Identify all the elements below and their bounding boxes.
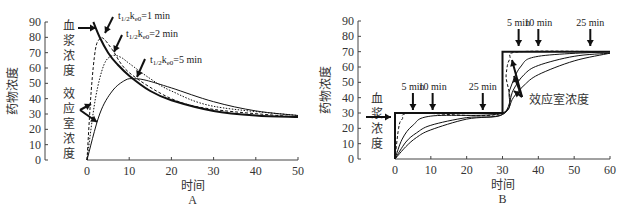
svg-text:血: 血	[63, 19, 75, 33]
y-axis-label: 药物浓度	[318, 66, 333, 114]
x-tick-label: 0	[84, 164, 90, 178]
y-tick-label: 80	[342, 29, 354, 43]
y-tick-label: 60	[29, 61, 41, 75]
figure: 010203040506070809001020304050时间A药物浓度血浆浓…	[0, 0, 621, 210]
x-tick-label: 40	[532, 163, 544, 177]
svg-text:浆: 浆	[63, 33, 75, 48]
x-tick-label: 30	[208, 164, 220, 178]
arrow-k1-icon	[105, 17, 113, 33]
x-tick-label: 60	[604, 163, 616, 177]
ke0-label: t1/2ke0=1 min	[118, 10, 170, 23]
x-tick-label: 50	[568, 163, 580, 177]
series-line	[87, 55, 298, 160]
effect-site-label: 效应室浓度	[63, 86, 75, 161]
y-tick-label: 50	[342, 75, 354, 89]
svg-text:效: 效	[63, 86, 75, 101]
svg-text:度: 度	[63, 63, 75, 78]
y-tick-label: 20	[342, 121, 354, 135]
y-tick-label: 90	[29, 15, 41, 29]
down-arrow-icon	[515, 29, 522, 46]
time-label: 25 min	[469, 81, 497, 92]
down-arrow-icon	[535, 29, 542, 46]
effect-site-label: 效应室浓度	[529, 92, 589, 107]
y-tick-label: 0	[348, 152, 354, 166]
y-tick-label: 50	[29, 76, 41, 90]
plasma-label: 血浆浓度	[63, 19, 75, 78]
y-tick-label: 80	[29, 30, 41, 44]
svg-text:度: 度	[63, 146, 75, 161]
x-tick-label: 20	[461, 163, 473, 177]
chart-panel-a: 010203040506070809001020304050时间A药物浓度血浆浓…	[5, 10, 304, 207]
y-axis: 0102030405060708090	[29, 15, 48, 167]
x-tick-label: 20	[165, 164, 177, 178]
time-label: 10 min	[419, 81, 447, 92]
y-axis: 0102030405060708090	[342, 14, 361, 166]
y-tick-label: 70	[29, 46, 41, 60]
ke0-label: t1/2ke0=2 min	[126, 28, 178, 41]
y-tick-label: 70	[342, 45, 354, 59]
y-tick-label: 30	[342, 106, 354, 120]
down-arrow-icon	[409, 93, 416, 110]
y-tick-label: 0	[35, 153, 41, 167]
svg-text:浓: 浓	[371, 122, 383, 136]
svg-text:浓: 浓	[63, 132, 75, 146]
y-tick-label: 40	[342, 91, 354, 105]
arrow-k2-icon	[113, 35, 122, 52]
svg-text:应: 应	[63, 101, 75, 116]
plasma-arrow-icon	[78, 25, 96, 32]
series-line	[87, 79, 298, 160]
y-tick-label: 20	[29, 122, 41, 136]
x-axis: 0102030405060	[392, 156, 616, 177]
x-axis-label: 时间	[181, 179, 205, 193]
time-label: 10 min	[524, 17, 552, 28]
svg-text:浓: 浓	[63, 49, 75, 63]
svg-text:度: 度	[371, 136, 383, 151]
ke0-label: t1/2ke0=5 min	[150, 54, 202, 67]
svg-text:血: 血	[371, 92, 383, 106]
arrow-k5-icon	[136, 59, 145, 77]
effect-arrow-icon	[80, 104, 91, 110]
chart-panel-b: 01020304050607080900102030405060时间B药物浓度血…	[318, 14, 616, 206]
x-tick-label: 0	[392, 163, 398, 177]
x-tick-label: 30	[497, 163, 509, 177]
y-tick-label: 40	[29, 92, 41, 106]
down-arrow-icon	[429, 93, 436, 110]
y-tick-label: 90	[342, 14, 354, 28]
down-arrow-icon	[587, 29, 594, 46]
x-tick-label: 40	[250, 164, 262, 178]
x-axis-label: 时间	[491, 178, 515, 192]
series-line	[93, 22, 298, 117]
plasma-label: 血浆浓度	[371, 92, 383, 151]
x-axis: 01020304050	[84, 157, 304, 178]
svg-text:浆: 浆	[371, 106, 383, 121]
svg-text:室: 室	[63, 116, 75, 131]
x-tick-label: 10	[123, 164, 135, 178]
panel-label: B	[498, 192, 506, 206]
panel-label: A	[188, 193, 197, 207]
effect-arrow-icon	[80, 110, 97, 122]
down-arrow-icon	[479, 93, 486, 110]
y-axis-label: 药物浓度	[5, 67, 20, 115]
y-tick-label: 10	[29, 138, 41, 152]
x-tick-label: 10	[425, 163, 437, 177]
y-tick-label: 10	[342, 137, 354, 151]
time-label: 25 min	[576, 17, 604, 28]
y-tick-label: 60	[342, 60, 354, 74]
y-tick-label: 30	[29, 107, 41, 121]
x-tick-label: 50	[292, 164, 304, 178]
